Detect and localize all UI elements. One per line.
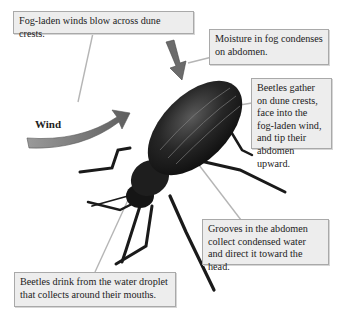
callout-moisture: Moisture in fog condenses on abdomen.: [209, 29, 329, 65]
wind-label: Wind: [35, 118, 61, 130]
callout-fog-winds: Fog-laden winds blow across dune crests.: [13, 11, 194, 34]
beetle-body: [124, 64, 259, 208]
down-arrow-icon: [166, 40, 186, 80]
callout-grooves: Grooves in the abdomen collect condensed…: [202, 219, 329, 265]
callout-drink: Beetles drink from the water droplet tha…: [14, 272, 176, 307]
fog-beetle-diagram: Wind Fog-laden winds blow across dune cr…: [0, 0, 338, 319]
callout-beetles-gather: Beetles gather on dune crests, face into…: [251, 78, 332, 149]
